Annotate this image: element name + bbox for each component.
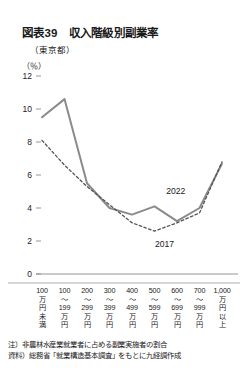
y-tick-label: 0	[16, 269, 32, 279]
figure-container: 図表39 収入階級別副業率 （東京都） （％） 024681012 100万円未…	[0, 0, 246, 377]
x-tick-label: 700～999万円	[189, 287, 211, 330]
y-tick-label: 6	[16, 170, 32, 180]
y-tick-label: 10	[16, 104, 32, 114]
x-tick-label: 100～199万円	[54, 287, 76, 330]
x-tick-label: 100万円未満	[31, 287, 53, 330]
x-tick-label: 1,000万円以上	[211, 287, 233, 330]
figure-note: 注）非農林水産業就業者に占める副業実施者の割合	[8, 340, 167, 350]
series-label-2017: 2017	[155, 239, 174, 249]
x-tick-label: 500～599万円	[144, 287, 166, 330]
y-tick-label: 4	[16, 203, 32, 213]
y-tick-label: 12	[16, 71, 32, 81]
x-tick-label: 300～399万円	[99, 287, 121, 330]
series-line-2017	[42, 140, 222, 231]
series-label-2022: 2022	[166, 186, 185, 196]
x-tick-label: 200～299万円	[76, 287, 98, 330]
x-tick-label: 600～699万円	[166, 287, 188, 330]
y-tick-label: 2	[16, 236, 32, 246]
x-tick-label: 400～499万円	[121, 287, 143, 330]
series-line-2022	[42, 99, 222, 221]
figure-source: 資料）総務省「就業構造基本調査」をもとに九経調作成	[8, 351, 181, 361]
y-tick-label: 8	[16, 137, 32, 147]
